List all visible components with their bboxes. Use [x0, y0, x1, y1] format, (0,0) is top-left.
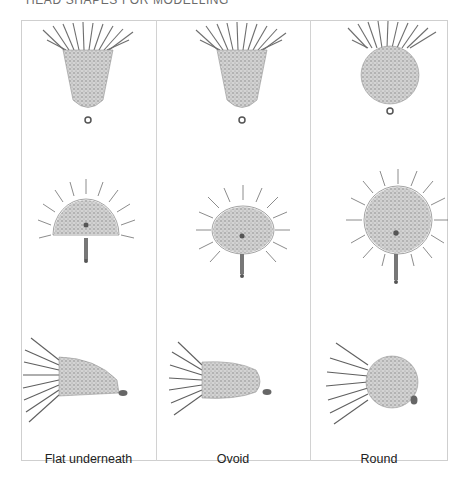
- fly-head-illustrations: [156, 20, 310, 461]
- front-view-cone: [43, 22, 133, 123]
- label-flat-underneath: Flat underneath: [21, 452, 156, 466]
- end-on-view-half-dome: [38, 179, 135, 263]
- column-flat-underneath: Flat underneath: [21, 20, 156, 461]
- front-view-round: [348, 21, 436, 114]
- end-on-view-round: [346, 169, 448, 284]
- side-view: [169, 342, 272, 415]
- label-round: Round: [310, 452, 448, 466]
- column-round: Round: [310, 20, 448, 461]
- side-view: [326, 343, 418, 424]
- fly-head-illustrations: [310, 20, 448, 461]
- side-view: [23, 338, 128, 422]
- column-ovoid: Ovoid: [156, 20, 310, 461]
- front-view-cone: [196, 22, 286, 123]
- label-ovoid: Ovoid: [156, 452, 310, 466]
- end-on-view-ovoid: [196, 185, 290, 278]
- fly-head-illustrations: [21, 20, 156, 461]
- page-heading: HEAD SHAPES FOR MODELLING: [26, 0, 229, 7]
